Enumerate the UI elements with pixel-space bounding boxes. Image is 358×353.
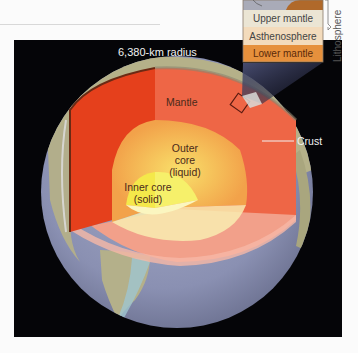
outer-core-label: Outer core (liquid) — [168, 142, 202, 178]
crust-label: Crust — [297, 135, 322, 147]
outer-core-label-line1: Outer — [168, 142, 202, 154]
radius-label: 6,380-km radius — [118, 46, 197, 58]
outer-core-label-line3: (liquid) — [168, 166, 202, 178]
inner-core-label: Inner core (solid) — [118, 181, 178, 205]
lithosphere-label-container: Lithosphere — [330, 0, 344, 62]
inset-layer-labels: Upper mantle Asthenosphere Lower mantle — [243, 0, 323, 63]
inset-asthenosphere-label: Asthenosphere — [243, 28, 323, 45]
mantle-label: Mantle — [166, 96, 198, 108]
inner-core-label-line2: (solid) — [118, 193, 178, 205]
inner-core-label-line1: Inner core — [118, 181, 178, 193]
lithosphere-label: Lithosphere — [332, 10, 343, 62]
inset-lower-mantle-label: Lower mantle — [243, 45, 323, 62]
inset-upper-mantle-label: Upper mantle — [243, 10, 323, 27]
outer-core-label-line2: core — [168, 154, 202, 166]
